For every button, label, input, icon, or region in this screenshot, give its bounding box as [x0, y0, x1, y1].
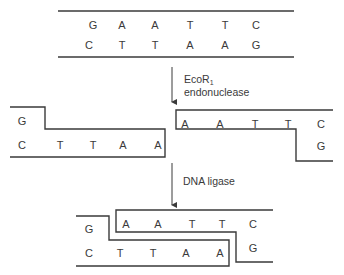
base: T: [252, 118, 259, 130]
base: A: [181, 118, 189, 130]
base: T: [285, 118, 292, 130]
base: G: [317, 140, 326, 152]
enzyme-label-dna-ligase: DNA ligase: [183, 175, 235, 187]
base: T: [119, 39, 126, 51]
base: C: [252, 19, 260, 31]
base: T: [57, 139, 64, 151]
base: C: [249, 218, 257, 230]
base: T: [90, 139, 97, 151]
base: A: [119, 139, 127, 151]
step2-arrow: DNA ligase: [172, 163, 235, 205]
ligated-right-strand: A A T T C G: [116, 210, 273, 262]
base: A: [151, 19, 159, 31]
base: T: [152, 39, 159, 51]
base: A: [186, 39, 194, 51]
base: A: [216, 247, 224, 259]
base: T: [219, 218, 226, 230]
ecori-restriction-diagram: G A A T T C C T T A A G EcoR1 endonuclea…: [0, 0, 344, 275]
base: C: [18, 139, 26, 151]
base: G: [89, 19, 98, 31]
base: A: [216, 118, 224, 130]
base: A: [118, 19, 126, 31]
base: T: [189, 218, 196, 230]
base: G: [252, 39, 261, 51]
cut-left-fragment: G C T T A A: [10, 107, 165, 157]
intact-dna: G A A T T C C T T A A G: [58, 11, 294, 57]
left-fragment-backbone: [10, 107, 165, 157]
enzyme-label-ecori: EcoR1: [184, 73, 214, 86]
base: A: [182, 247, 190, 259]
step1-arrow: EcoR1 endonuclease: [172, 67, 250, 102]
base: A: [122, 218, 130, 230]
base: T: [150, 247, 157, 259]
base: G: [85, 223, 94, 235]
base: C: [85, 39, 93, 51]
cut-right-fragment: A A T T C G: [176, 110, 333, 161]
enzyme-label-endonuclease: endonuclease: [184, 86, 250, 98]
intact-bottom-strand: C T T A A G: [85, 39, 260, 51]
base: T: [117, 247, 124, 259]
base: G: [249, 242, 258, 254]
base: T: [222, 19, 229, 31]
ligated-left-strand: G C T T A A: [76, 216, 229, 266]
base: A: [154, 139, 162, 151]
intact-top-strand: G A A T T C: [89, 19, 260, 31]
base: G: [18, 115, 27, 127]
base: C: [317, 118, 325, 130]
base: T: [187, 19, 194, 31]
base: A: [154, 218, 162, 230]
base: A: [221, 39, 229, 51]
base: C: [85, 247, 93, 259]
